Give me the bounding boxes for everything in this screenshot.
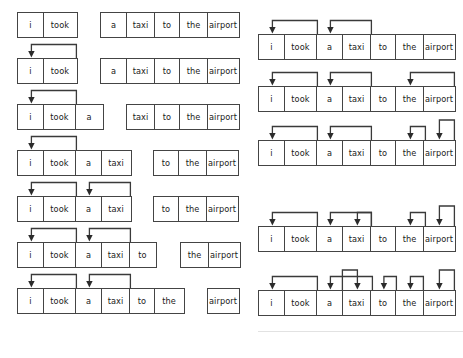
token-cell-taxi: taxi xyxy=(102,197,130,221)
token-cell-the: the xyxy=(180,105,208,129)
token-cell-i: i xyxy=(259,227,285,251)
token-cell-airport: airport xyxy=(424,141,454,165)
token-cell-a: a xyxy=(317,87,343,111)
token-cell-the: the xyxy=(396,87,424,111)
token-cell-i: i xyxy=(18,243,44,267)
token-group-sentence: itookataxitotheairport xyxy=(258,226,456,252)
token-cell-airport: airport xyxy=(208,105,238,129)
token-cell-i: i xyxy=(18,289,44,313)
token-cell-took: took xyxy=(285,141,317,165)
token-cell-a: a xyxy=(76,151,102,175)
token-cell-i: i xyxy=(18,105,44,129)
token-cell-taxi: taxi xyxy=(127,105,155,129)
token-cell-to: to xyxy=(371,35,396,59)
token-group-suffix: totheairport xyxy=(153,150,239,176)
token-cell-to: to xyxy=(155,59,180,83)
token-cell-airport: airport xyxy=(208,13,238,37)
token-cell-the: the xyxy=(180,13,208,37)
token-group-prefix: itooka xyxy=(17,104,104,130)
token-cell-took: took xyxy=(44,105,76,129)
token-cell-took: took xyxy=(44,197,76,221)
token-cell-a: a xyxy=(317,291,343,315)
token-group-suffix: ataxitotheairport xyxy=(100,58,240,84)
token-cell-to: to xyxy=(371,227,396,251)
token-cell-took: took xyxy=(44,243,76,267)
token-cell-taxi: taxi xyxy=(127,59,155,83)
token-group-suffix: taxitotheairport xyxy=(126,104,240,130)
token-cell-a: a xyxy=(101,59,127,83)
token-cell-a: a xyxy=(317,141,343,165)
token-group-sentence: itookataxitotheairport xyxy=(258,34,456,60)
token-cell-i: i xyxy=(259,141,285,165)
token-cell-took: took xyxy=(44,289,76,313)
token-cell-airport: airport xyxy=(207,197,237,221)
token-group-suffix: totheairport xyxy=(153,196,239,222)
token-cell-the: the xyxy=(179,151,207,175)
token-cell-took: took xyxy=(285,227,317,251)
token-cell-a: a xyxy=(76,197,102,221)
token-cell-i: i xyxy=(259,87,285,111)
token-cell-airport: airport xyxy=(424,35,454,59)
token-cell-a: a xyxy=(101,13,127,37)
token-cell-to: to xyxy=(371,291,396,315)
token-cell-took: took xyxy=(285,35,317,59)
token-cell-a: a xyxy=(317,35,343,59)
token-group-prefix: itook xyxy=(17,58,78,84)
token-cell-the: the xyxy=(396,291,424,315)
token-cell-to: to xyxy=(155,13,180,37)
token-cell-to: to xyxy=(155,105,180,129)
token-cell-the: the xyxy=(396,141,424,165)
token-cell-took: took xyxy=(44,151,76,175)
token-cell-to: to xyxy=(371,87,396,111)
token-cell-to: to xyxy=(371,141,396,165)
token-group-prefix: itookataxitothe xyxy=(17,288,185,314)
token-cell-the: the xyxy=(180,59,208,83)
token-cell-took: took xyxy=(285,291,317,315)
token-cell-took: took xyxy=(285,87,317,111)
token-cell-taxi: taxi xyxy=(102,151,130,175)
token-cell-the: the xyxy=(179,197,207,221)
token-cell-taxi: taxi xyxy=(343,291,371,315)
token-group-prefix: itook xyxy=(17,12,78,38)
token-cell-taxi: taxi xyxy=(102,243,130,267)
token-cell-a: a xyxy=(76,243,102,267)
token-cell-took: took xyxy=(44,13,76,37)
token-cell-a: a xyxy=(76,289,102,313)
token-cell-airport: airport xyxy=(208,289,238,313)
token-cell-the: the xyxy=(181,243,209,267)
token-cell-i: i xyxy=(18,13,44,37)
token-cell-taxi: taxi xyxy=(343,141,371,165)
token-cell-the: the xyxy=(396,35,424,59)
token-cell-taxi: taxi xyxy=(102,289,130,313)
token-group-sentence: itookataxitotheairport xyxy=(258,140,456,166)
token-cell-taxi: taxi xyxy=(343,35,371,59)
token-cell-i: i xyxy=(18,151,44,175)
token-cell-to: to xyxy=(154,197,179,221)
token-cell-taxi: taxi xyxy=(343,87,371,111)
token-cell-a: a xyxy=(317,227,343,251)
token-cell-to: to xyxy=(154,151,179,175)
token-group-prefix: itookataxi xyxy=(17,150,132,176)
token-cell-taxi: taxi xyxy=(127,13,155,37)
token-group-suffix: airport xyxy=(207,288,240,314)
token-group-sentence: itookataxitotheairport xyxy=(258,86,456,112)
token-group-sentence: itookataxitotheairport xyxy=(258,290,456,316)
token-cell-i: i xyxy=(259,291,285,315)
token-cell-to: to xyxy=(130,243,155,267)
token-group-prefix: itookataxi xyxy=(17,196,132,222)
token-cell-airport: airport xyxy=(424,87,454,111)
token-cell-i: i xyxy=(259,35,285,59)
token-cell-airport: airport xyxy=(209,243,239,267)
token-cell-the: the xyxy=(155,289,183,313)
token-cell-to: to xyxy=(130,289,155,313)
token-arrow-diagram: itookataxitotheairportitookataxitotheair… xyxy=(0,0,463,358)
scan-artifact-line xyxy=(258,331,463,332)
token-cell-airport: airport xyxy=(424,227,454,251)
token-cell-i: i xyxy=(18,197,44,221)
token-cell-took: took xyxy=(44,59,76,83)
token-cell-i: i xyxy=(18,59,44,83)
token-cell-the: the xyxy=(396,227,424,251)
token-group-suffix: theairport xyxy=(180,242,241,268)
token-group-prefix: itookataxito xyxy=(17,242,157,268)
token-cell-airport: airport xyxy=(207,151,237,175)
